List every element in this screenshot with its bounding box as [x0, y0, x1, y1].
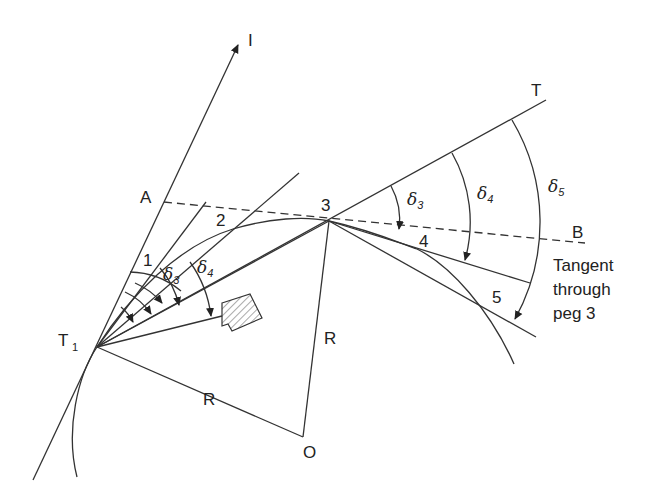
obstruction-icon — [222, 294, 262, 331]
annotation-line-3: peg 3 — [553, 304, 596, 323]
deflection-arrow-right-delta4 — [452, 153, 470, 260]
radius-line-t1-o — [97, 347, 303, 437]
label-peg-5: 5 — [492, 288, 501, 307]
chord-line-3 — [97, 221, 329, 347]
back-tangent-line — [33, 45, 238, 480]
label-right-delta3: δ3 — [407, 189, 424, 211]
deflection-arrow-right-delta3 — [391, 186, 400, 229]
label-T1: T — [58, 331, 68, 350]
label-A: A — [140, 188, 152, 207]
label-right-delta4: δ4 — [477, 183, 493, 205]
deflection-arrow-right-delta5 — [512, 120, 540, 319]
label-radius-lower: R — [203, 390, 215, 409]
label-B: B — [572, 223, 583, 242]
deflection-arrow-0 — [121, 307, 133, 322]
label-left-delta4: δ4 — [197, 257, 213, 279]
label-peg-4: 4 — [419, 232, 428, 251]
chord-line-3-5 — [329, 221, 536, 337]
label-right-delta5: δ5 — [548, 176, 565, 198]
curve-setting-diagram: I A T B T 1 O 1 2 3 4 5 R R δ3 δ4 δ3 δ4 … — [0, 0, 658, 498]
label-peg-2: 2 — [216, 211, 225, 230]
label-peg-1: 1 — [143, 251, 152, 270]
annotation-line-1: Tangent — [553, 256, 614, 275]
label-I: I — [248, 31, 253, 50]
label-left-delta3: δ3 — [163, 264, 180, 286]
annotation-line-2: through — [553, 280, 611, 299]
chord-line-3-4 — [329, 221, 530, 283]
label-peg-3: 3 — [321, 196, 330, 215]
label-O: O — [303, 443, 316, 462]
tangent-through-peg3-line — [164, 202, 585, 243]
label-T: T — [531, 81, 541, 100]
label-T1-sub: 1 — [72, 341, 78, 353]
label-radius-vertical: R — [324, 329, 336, 348]
